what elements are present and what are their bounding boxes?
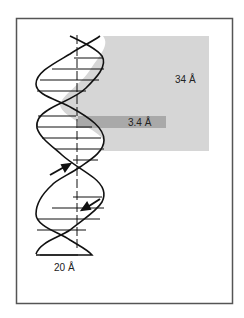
rise-label: 3.4 Å bbox=[128, 116, 152, 128]
pitch-label: 34 Å bbox=[175, 73, 196, 85]
dna-helix-diagram: 34 Å 3.4 Å 20 Å bbox=[0, 0, 244, 318]
diameter-label: 20 Å bbox=[54, 261, 75, 273]
rise-band bbox=[78, 116, 166, 128]
